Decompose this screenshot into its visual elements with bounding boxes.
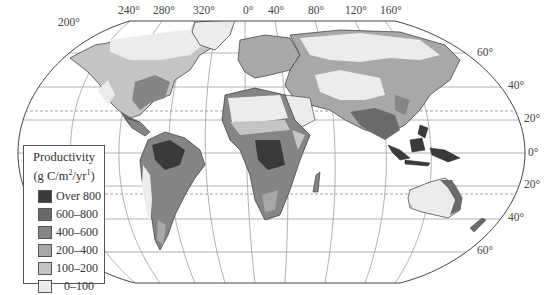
legend-item-200-400: 200–400 — [38, 241, 104, 259]
longitude-label: 40° — [268, 5, 284, 17]
longitude-label: 0° — [243, 5, 253, 17]
legend-unit: (g C/m2/yr1) — [24, 165, 104, 184]
legend-item-600-800: 600–800 — [38, 205, 104, 223]
longitude-label: 280° — [153, 5, 175, 17]
legend-item-0-100: 0–100 — [38, 277, 104, 295]
legend-swatch — [38, 262, 52, 275]
legend-item-100-200: 100–200 — [38, 259, 104, 277]
legend-item-over-800: Over 800 — [38, 187, 104, 205]
legend-item-400-600: 400–600 — [38, 223, 104, 241]
legend-swatch — [38, 280, 52, 293]
legend: Productivity (g C/m2/yr1) Over 800 600–8… — [23, 145, 105, 284]
latitude-label: 60° — [477, 47, 493, 59]
longitude-label: 160° — [380, 5, 402, 17]
longitude-label: 80° — [308, 5, 324, 17]
longitude-label: 240° — [118, 5, 140, 17]
legend-swatch — [38, 208, 52, 221]
legend-swatch — [38, 226, 52, 239]
longitude-label: 320° — [193, 5, 215, 17]
latitude-label: 20° — [524, 113, 540, 125]
longitude-label: 200° — [58, 17, 80, 29]
legend-title: Productivity — [24, 150, 104, 165]
longitude-label: 120° — [345, 5, 367, 17]
latitude-label: 20° — [524, 179, 540, 191]
legend-swatch — [38, 190, 52, 203]
legend-swatch — [38, 244, 52, 257]
latitude-label: 0° — [528, 147, 538, 159]
latitude-label: 60° — [477, 245, 493, 257]
latitude-label: 40° — [508, 80, 524, 92]
se-asia-islands — [388, 125, 460, 166]
latitude-label: 40° — [508, 212, 524, 224]
